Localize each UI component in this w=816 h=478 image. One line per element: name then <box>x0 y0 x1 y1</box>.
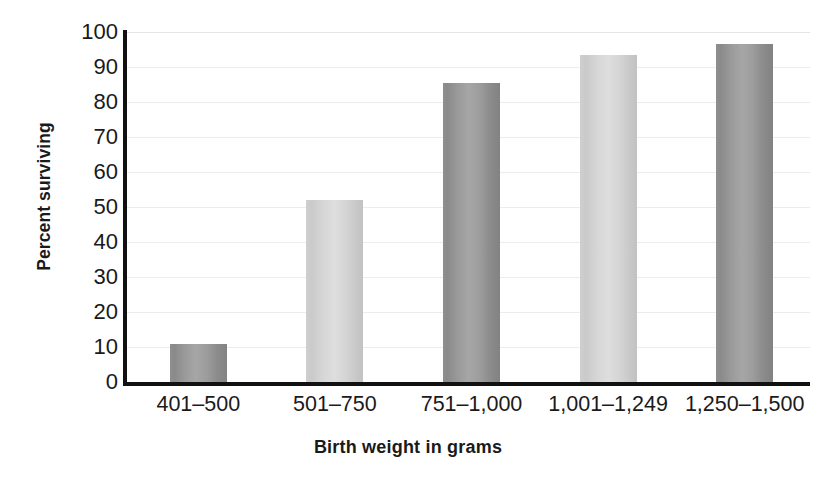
x-axis-title: Birth weight in grams <box>0 437 816 458</box>
gridline-90 <box>127 67 810 68</box>
bar-1-250-1-500 <box>716 44 773 382</box>
x-tick-label-2: 751–1,000 <box>421 392 523 418</box>
y-tick-label-40: 40 <box>46 231 118 253</box>
bar-1-001-1-249 <box>580 55 637 382</box>
y-tick-label-10: 10 <box>46 336 118 358</box>
bar-501-750 <box>306 200 363 382</box>
x-axis-spine <box>123 382 810 386</box>
y-tick-label-50: 50 <box>46 196 118 218</box>
y-axis-tick-labels: 0102030405060708090100 <box>46 0 118 478</box>
bar-751-1-000 <box>443 83 500 382</box>
y-tick-label-90: 90 <box>46 56 118 78</box>
bar-401-500 <box>170 344 227 383</box>
y-axis-spine <box>123 30 127 384</box>
plot-area <box>127 32 810 382</box>
gridline-100 <box>127 32 810 33</box>
x-tick-label-4: 1,250–1,500 <box>685 392 805 418</box>
y-tick-label-30: 30 <box>46 266 118 288</box>
y-tick-label-70: 70 <box>46 126 118 148</box>
x-axis-tick-labels: 401–500501–750751–1,0001,001–1,2491,250–… <box>127 392 810 426</box>
y-tick-label-20: 20 <box>46 301 118 323</box>
x-tick-label-3: 1,001–1,249 <box>548 392 668 418</box>
y-tick-label-80: 80 <box>46 91 118 113</box>
y-tick-label-60: 60 <box>46 161 118 183</box>
y-tick-label-100: 100 <box>46 21 118 43</box>
x-tick-label-0: 401–500 <box>156 392 240 418</box>
y-tick-label-0: 0 <box>46 371 118 393</box>
bar-chart-figure: Percent surviving 0102030405060708090100… <box>0 0 816 478</box>
x-tick-label-1: 501–750 <box>293 392 377 418</box>
